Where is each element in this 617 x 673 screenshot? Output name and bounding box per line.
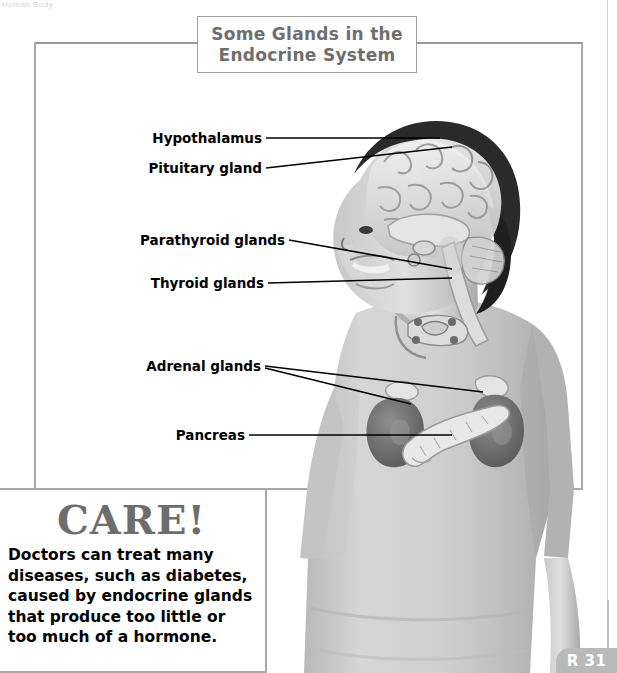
pituitary-structure <box>408 254 420 266</box>
label-pituitary-gland: Pituitary gland <box>40 160 262 176</box>
title-line-1: Some Glands in the <box>211 24 403 45</box>
page-tab-stem <box>607 600 609 650</box>
cut-off-page-header: Human Body <box>2 0 72 9</box>
label-adrenal-glands: Adrenal glands <box>40 358 261 374</box>
title-line-2: Endocrine System <box>211 45 403 66</box>
adrenal-gland-left <box>386 381 419 400</box>
page-edge-rule <box>607 0 608 673</box>
photo-torso <box>302 300 562 673</box>
diagram-frame-left-edge <box>34 42 36 490</box>
hypothalamus-structure <box>413 241 435 255</box>
page-number-label: R 31 <box>567 652 607 670</box>
page-title: Some Glands in the Endocrine System <box>211 24 403 66</box>
label-pancreas: Pancreas <box>40 427 245 443</box>
label-hypothalamus: Hypothalamus <box>40 130 262 146</box>
textbook-page: Human Body Some Glands in the Endocrine … <box>0 0 617 673</box>
care-callout-box: CARE! Doctors can treat many diseases, s… <box>0 488 267 673</box>
label-parathyroid-glands: Parathyroid glands <box>40 232 285 248</box>
diagram-title-box: Some Glands in the Endocrine System <box>197 16 417 73</box>
care-body-text: Doctors can treat many diseases, such as… <box>0 545 265 648</box>
anatomy-photograph <box>300 88 600 673</box>
label-thyroid-glands: Thyroid glands <box>40 275 264 291</box>
page-number-tab: R 31 <box>556 648 617 673</box>
parathyroid-structure <box>414 318 422 326</box>
care-heading: CARE! <box>0 496 265 543</box>
